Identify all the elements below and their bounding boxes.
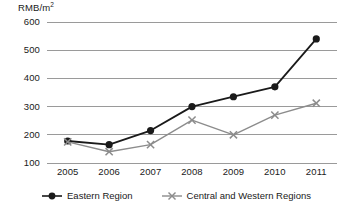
y-axis-unit-text: RMB/m [18,2,50,13]
gridlines [47,22,337,163]
x-axis-tick-label: 2008 [172,166,212,177]
line-chart: RMB/m2 600500400300200100 20052006200720… [0,0,352,215]
plot-area [0,0,352,215]
chart-legend: Eastern Region Central and Western Regio… [0,190,352,201]
y-axis-tick-label: 500 [14,44,40,55]
data-point-eastern-region [188,103,195,110]
series-line-eastern-region [68,39,317,145]
x-axis-tick-label: 2009 [213,166,253,177]
y-axis-unit-label: RMB/m2 [18,2,54,13]
y-axis-tick-label: 300 [14,101,40,112]
data-point-eastern-region [271,83,278,90]
y-axis-unit-exponent: 2 [50,1,54,8]
x-axis-tick-label: 2005 [48,166,88,177]
series-layer [64,35,320,155]
x-axis-tick-label: 2011 [296,166,336,177]
legend-label-eastern-region: Eastern Region [67,190,132,201]
x-axis-tick-label: 2010 [255,166,295,177]
y-axis-tick-label: 600 [14,16,40,27]
legend-item-eastern-region: Eastern Region [41,190,132,201]
data-point-eastern-region [106,141,113,148]
series-eastern-region [64,35,320,148]
circle-marker-icon [41,191,63,201]
x-axis-tick-label: 2006 [89,166,129,177]
data-point-eastern-region [147,127,154,134]
x-axis-tick-label: 2007 [131,166,171,177]
legend-item-central-western-regions: Central and Western Regions [161,190,311,201]
data-point-eastern-region [230,93,237,100]
y-axis-tick-label: 400 [14,72,40,83]
legend-label-central-western-regions: Central and Western Regions [187,190,311,201]
data-point-eastern-region [313,35,320,42]
x-marker-icon [161,191,183,201]
y-axis-tick-label: 200 [14,129,40,140]
y-axis-tick-label: 100 [14,157,40,168]
